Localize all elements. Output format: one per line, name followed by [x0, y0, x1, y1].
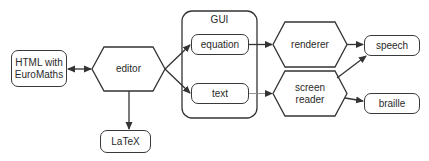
- equation-label: equation: [191, 34, 249, 55]
- braille-label: braille: [364, 93, 420, 114]
- gui-label: GUI: [182, 13, 257, 27]
- html-euromaths-label: HTML with EuroMaths: [11, 50, 67, 87]
- screen-reader-line1: screen: [295, 82, 325, 94]
- editor-label: editor: [92, 47, 165, 91]
- diagram: HTML with EuroMaths editor LaTeX GUI equ…: [0, 0, 429, 161]
- screen-reader-line2: reader: [296, 94, 325, 106]
- text-label: text: [191, 83, 249, 104]
- html-euromaths-line1: HTML with: [15, 57, 62, 69]
- speech-label: speech: [364, 35, 420, 56]
- renderer-label: renderer: [273, 22, 347, 67]
- edge-screen-reader-braille: [345, 98, 363, 101]
- screen-reader-label: screen reader: [273, 71, 347, 116]
- latex-label: LaTeX: [100, 130, 151, 153]
- html-euromaths-line2: EuroMaths: [15, 69, 63, 81]
